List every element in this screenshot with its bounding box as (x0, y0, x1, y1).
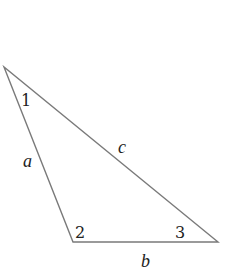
triangle-diagram: 1 2 3 a c b (0, 0, 228, 277)
triangle (4, 67, 218, 242)
angle-label-2: 2 (75, 223, 85, 242)
side-label-c: c (118, 137, 126, 157)
angle-label-1: 1 (21, 91, 31, 110)
angle-label-3: 3 (175, 223, 185, 242)
side-label-a: a (23, 151, 32, 171)
side-label-b: b (141, 251, 150, 271)
